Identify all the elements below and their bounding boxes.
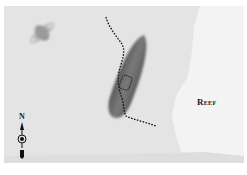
north-arrow-icon — [18, 122, 26, 159]
compass-north-label: N — [19, 112, 25, 121]
shoal-area — [4, 152, 244, 163]
shipwreck-icon — [103, 31, 154, 121]
small-craft-icon — [25, 16, 60, 49]
map-graphics — [4, 6, 244, 163]
map-canvas: N Reef — [4, 6, 244, 163]
reef-area — [172, 6, 244, 156]
reef-label: Reef — [197, 97, 216, 107]
